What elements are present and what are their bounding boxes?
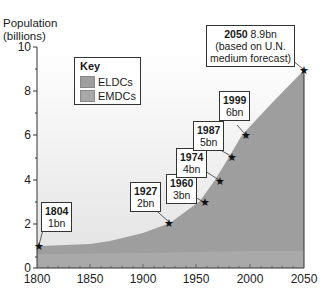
callout-1927: 1927 2bn — [130, 182, 161, 212]
svg-text:4: 4 — [24, 173, 31, 187]
star-icon: ★ — [299, 64, 309, 77]
svg-text:8: 8 — [24, 84, 31, 98]
star-icon: ★ — [34, 240, 44, 253]
callout-1999: 1999 6bn — [219, 91, 250, 121]
legend-swatch-eldc — [80, 76, 95, 88]
svg-text:6: 6 — [24, 128, 31, 142]
svg-text:1900: 1900 — [130, 272, 157, 286]
svg-text:1950: 1950 — [183, 272, 210, 286]
callout-1974: 1974 4bn — [176, 148, 207, 178]
star-icon: ★ — [227, 151, 237, 164]
legend-item-emdc: EMDCs — [80, 90, 136, 102]
y-ticks — [33, 47, 37, 268]
legend-title: Key — [80, 60, 100, 72]
callout-1804: 1804 1bn — [41, 202, 72, 232]
star-icon: ★ — [241, 129, 251, 142]
svg-text:2: 2 — [24, 217, 31, 231]
callout-1960: 1960 3bn — [166, 174, 197, 204]
svg-text:1850: 1850 — [77, 272, 104, 286]
callout-1987: 1987 5bn — [193, 121, 224, 151]
svg-text:2000: 2000 — [237, 272, 264, 286]
x-tick-labels: 1800 1850 1900 1950 2000 2050 — [24, 272, 318, 286]
star-icon: ★ — [215, 175, 225, 188]
legend-swatch-emdc — [80, 90, 95, 102]
star-icon: ★ — [164, 217, 174, 230]
legend-item-eldc: ELDCs — [80, 76, 133, 88]
y-axis-label: Population (billions) — [3, 17, 57, 43]
callout-2050: 2050 8.9bn (based on U.N. medium forecas… — [206, 25, 295, 67]
svg-text:2050: 2050 — [291, 272, 318, 286]
svg-text:1800: 1800 — [24, 272, 51, 286]
y-tick-labels: 0 2 4 6 8 10 — [18, 40, 32, 275]
legend: Key ELDCs EMDCs — [74, 57, 141, 105]
star-icon: ★ — [200, 196, 210, 209]
